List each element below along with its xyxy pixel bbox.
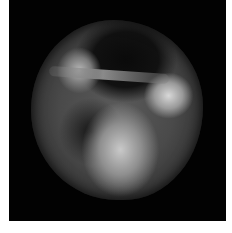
specimen-photo: [9, 0, 226, 221]
figure-caption: [9, 226, 226, 233]
specimen-tissue: [31, 20, 203, 200]
